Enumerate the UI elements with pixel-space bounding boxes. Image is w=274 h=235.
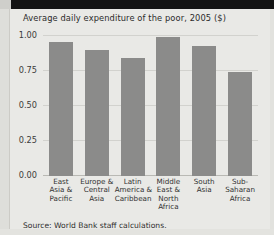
bar-latin-america-caribbean — [121, 58, 145, 176]
x-axis-label-line: Caribbean — [115, 195, 151, 203]
bar-south-asia — [192, 46, 216, 176]
page-right-gutter — [270, 9, 274, 235]
bar-slot — [115, 36, 151, 176]
x-axis-label-line: Asia — [186, 186, 222, 194]
source-note: Source: World Bank staff calculations. — [23, 221, 167, 230]
scan-dark-band — [11, 0, 274, 9]
chart-title: Average daily expenditure of the poor, 2… — [23, 13, 226, 23]
page-left-gutter — [0, 9, 10, 235]
y-axis-tick-label: 0.75 — [19, 65, 37, 75]
bar-slot — [186, 36, 222, 176]
y-axis-tick-label: 0.25 — [19, 135, 37, 145]
bar-slot — [150, 36, 186, 176]
page-edge-artifact — [0, 0, 11, 9]
x-axis-label: Sub-SaharanAfrica — [222, 178, 258, 212]
plot-area: 1.000.750.500.250.00 — [43, 36, 258, 176]
x-axis-label-line: Pacific — [43, 195, 79, 203]
x-axis-label: MiddleEast &NorthAfrica — [150, 178, 186, 212]
bar-sub-saharan-africa — [228, 72, 252, 176]
bar-middle-east-north-africa — [156, 37, 180, 176]
x-axis-label: EastAsia &Pacific — [43, 178, 79, 212]
y-axis-tick-label: 1.00 — [19, 30, 37, 40]
x-axis-label: SouthAsia — [186, 178, 222, 212]
bar-slot — [222, 36, 258, 176]
x-axis-label: Europe &CentralAsia — [79, 178, 115, 212]
x-axis-label-line: Africa — [222, 195, 258, 203]
x-axis-labels: EastAsia &PacificEurope &CentralAsiaLati… — [43, 178, 258, 212]
x-axis-label: LatinAmerica &Caribbean — [115, 178, 151, 212]
bar-east-asia-pacific — [49, 42, 73, 176]
bars-group — [43, 36, 258, 176]
y-axis-tick-label: 0.00 — [19, 170, 37, 180]
chart-figure: Average daily expenditure of the poor, 2… — [0, 0, 274, 235]
bar-slot — [43, 36, 79, 176]
bar-europe-central-asia — [85, 50, 109, 176]
y-axis-tick-label: 0.50 — [19, 100, 37, 110]
bar-slot — [79, 36, 115, 176]
x-axis-label-line: Asia — [79, 195, 115, 203]
x-axis-label-line: Africa — [150, 203, 186, 211]
